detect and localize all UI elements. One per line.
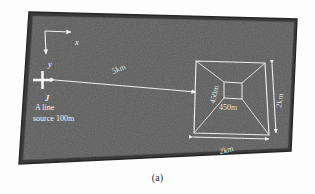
- figure-container: x y 5km J A line source 100m: [0, 0, 315, 194]
- y-axis-label: y: [47, 59, 52, 69]
- source-symbol-label: J: [44, 93, 50, 103]
- figure-caption: (a): [0, 172, 315, 183]
- source-line1-label: A line: [35, 103, 55, 112]
- inner-width-label-450m: 450m: [219, 103, 238, 112]
- ground-slab: [19, 12, 297, 164]
- x-axis-label: x: [74, 37, 79, 47]
- source-line2-label: source 100m: [33, 114, 75, 123]
- schematic-diagram: x y 5km J A line source 100m: [0, 0, 315, 194]
